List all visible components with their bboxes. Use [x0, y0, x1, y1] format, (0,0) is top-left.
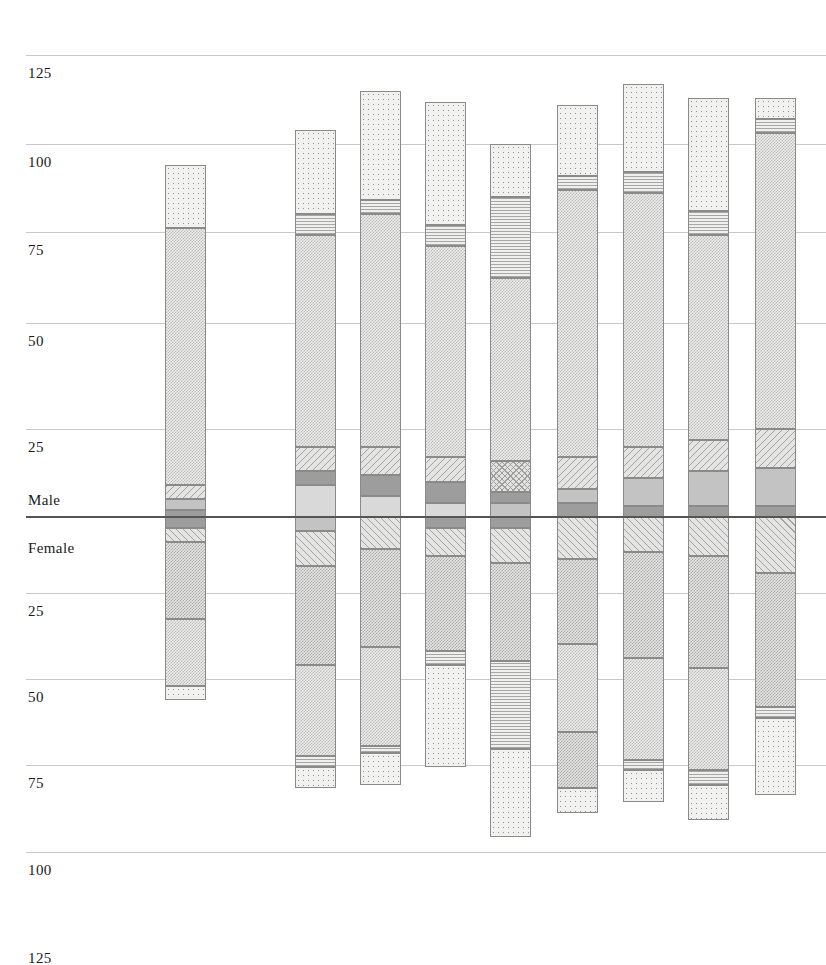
bar-3-female-segment-2[interactable]	[360, 549, 401, 648]
bar-5-female-segment-1[interactable]	[490, 517, 531, 528]
bar-5-female-segment-3[interactable]	[490, 563, 531, 662]
bar-6-male-segment-5[interactable]	[557, 489, 598, 503]
bar-6-female-segment-2[interactable]	[557, 559, 598, 643]
bar-3-male-segment-6[interactable]	[360, 496, 401, 517]
bar-7-female-segment-5[interactable]	[623, 770, 664, 802]
bar-column-2[interactable]	[295, 130, 336, 788]
bar-1-female-segment-3[interactable]	[165, 542, 206, 619]
bar-8-female-segment-3[interactable]	[688, 668, 729, 770]
bar-9-male-segment-4[interactable]	[755, 429, 796, 468]
bar-2-female-segment-6[interactable]	[295, 767, 336, 788]
bar-6-female-segment-5[interactable]	[557, 788, 598, 813]
bar-5-male-segment-4[interactable]	[490, 461, 531, 493]
bar-2-male-segment-5[interactable]	[295, 471, 336, 485]
bar-7-female-segment-4[interactable]	[623, 760, 664, 771]
bar-3-male-segment-4[interactable]	[360, 447, 401, 475]
bar-1-female-segment-2[interactable]	[165, 528, 206, 542]
bar-7-male-segment-2[interactable]	[623, 172, 664, 193]
bar-8-male-segment-1[interactable]	[688, 98, 729, 211]
bar-7-male-segment-1[interactable]	[623, 84, 664, 172]
bar-5-male-segment-2[interactable]	[490, 197, 531, 278]
bar-9-male-segment-5[interactable]	[755, 468, 796, 507]
bar-column-8[interactable]	[688, 98, 729, 820]
bar-column-9[interactable]	[755, 98, 796, 795]
bar-8-male-segment-3[interactable]	[688, 235, 729, 439]
bar-column-7[interactable]	[623, 84, 664, 802]
bar-1-male-segment-3[interactable]	[165, 485, 206, 499]
bar-7-male-segment-3[interactable]	[623, 193, 664, 446]
bar-1-male-segment-1[interactable]	[165, 165, 206, 228]
bar-8-female-segment-1[interactable]	[688, 517, 729, 556]
bar-9-female-segment-3[interactable]	[755, 707, 796, 718]
bar-7-female-segment-1[interactable]	[623, 517, 664, 552]
bar-3-female-segment-5[interactable]	[360, 753, 401, 785]
bar-9-male-segment-2[interactable]	[755, 119, 796, 133]
bar-6-male-segment-2[interactable]	[557, 176, 598, 190]
bar-6-female-segment-1[interactable]	[557, 517, 598, 559]
bar-7-male-segment-4[interactable]	[623, 447, 664, 479]
bar-2-male-segment-1[interactable]	[295, 130, 336, 214]
bar-5-female-segment-4[interactable]	[490, 661, 531, 749]
bar-column-5[interactable]	[490, 144, 531, 837]
bar-5-male-segment-6[interactable]	[490, 503, 531, 517]
bar-9-female-segment-4[interactable]	[755, 718, 796, 795]
bar-4-male-segment-3[interactable]	[425, 246, 466, 457]
bar-column-3[interactable]	[360, 91, 401, 784]
bar-1-male-segment-2[interactable]	[165, 228, 206, 485]
bar-9-female-segment-2[interactable]	[755, 573, 796, 707]
bar-2-male-segment-6[interactable]	[295, 485, 336, 517]
bar-5-female-segment-5[interactable]	[490, 749, 531, 837]
bar-4-male-segment-1[interactable]	[425, 102, 466, 225]
bar-2-female-segment-3[interactable]	[295, 566, 336, 665]
bar-9-male-segment-3[interactable]	[755, 133, 796, 429]
bar-8-female-segment-5[interactable]	[688, 785, 729, 820]
bar-2-female-segment-4[interactable]	[295, 665, 336, 757]
bar-1-male-segment-4[interactable]	[165, 499, 206, 510]
bar-9-male-segment-1[interactable]	[755, 98, 796, 119]
bar-5-male-segment-1[interactable]	[490, 144, 531, 197]
bar-4-male-segment-5[interactable]	[425, 482, 466, 503]
bar-2-female-segment-5[interactable]	[295, 756, 336, 767]
bar-6-male-segment-6[interactable]	[557, 503, 598, 517]
bar-4-male-segment-6[interactable]	[425, 503, 466, 517]
bar-3-male-segment-3[interactable]	[360, 214, 401, 446]
bar-7-female-segment-2[interactable]	[623, 552, 664, 658]
bar-3-female-segment-1[interactable]	[360, 517, 401, 549]
bar-1-female-segment-4[interactable]	[165, 619, 206, 686]
bar-8-female-segment-2[interactable]	[688, 556, 729, 669]
bar-8-male-segment-5[interactable]	[688, 471, 729, 506]
bar-3-male-segment-5[interactable]	[360, 475, 401, 496]
bar-8-female-segment-4[interactable]	[688, 770, 729, 784]
bar-9-female-segment-1[interactable]	[755, 517, 796, 573]
bar-4-female-segment-4[interactable]	[425, 651, 466, 665]
bar-4-female-segment-1[interactable]	[425, 517, 466, 528]
bar-7-female-segment-3[interactable]	[623, 658, 664, 760]
bar-3-female-segment-3[interactable]	[360, 647, 401, 746]
bar-8-male-segment-2[interactable]	[688, 211, 729, 236]
bar-8-male-segment-4[interactable]	[688, 440, 729, 472]
bar-2-male-segment-3[interactable]	[295, 235, 336, 446]
bar-4-male-segment-2[interactable]	[425, 225, 466, 246]
bar-4-female-segment-2[interactable]	[425, 528, 466, 556]
bar-column-4[interactable]	[425, 102, 466, 767]
bar-6-male-segment-4[interactable]	[557, 457, 598, 489]
bar-6-male-segment-1[interactable]	[557, 105, 598, 175]
bar-2-female-segment-2[interactable]	[295, 531, 336, 566]
bar-column-1[interactable]	[165, 165, 206, 700]
bar-1-female-segment-1[interactable]	[165, 517, 206, 528]
bar-4-female-segment-3[interactable]	[425, 556, 466, 651]
bar-2-female-segment-1[interactable]	[295, 517, 336, 531]
bar-4-male-segment-4[interactable]	[425, 457, 466, 482]
bar-2-male-segment-4[interactable]	[295, 447, 336, 472]
bar-3-female-segment-4[interactable]	[360, 746, 401, 753]
bar-5-male-segment-5[interactable]	[490, 492, 531, 503]
bar-2-male-segment-2[interactable]	[295, 214, 336, 235]
bar-5-male-segment-3[interactable]	[490, 278, 531, 461]
bar-4-female-segment-5[interactable]	[425, 665, 466, 767]
bar-3-male-segment-1[interactable]	[360, 91, 401, 200]
bar-column-6[interactable]	[557, 105, 598, 813]
bar-7-male-segment-5[interactable]	[623, 478, 664, 506]
bar-1-female-segment-5[interactable]	[165, 686, 206, 700]
bar-6-female-segment-3[interactable]	[557, 644, 598, 732]
bar-6-male-segment-3[interactable]	[557, 190, 598, 458]
